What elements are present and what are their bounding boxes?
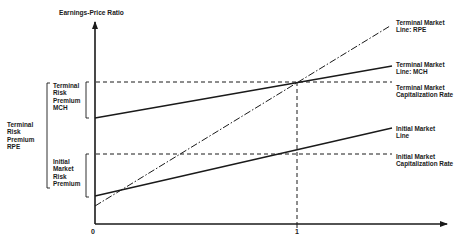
terminal-market-line-rpe	[95, 26, 390, 206]
bracket-initial-market-risk-premium	[86, 154, 89, 197]
initial-market-line	[95, 128, 392, 196]
terminal-market-line-mch	[95, 66, 392, 118]
diagram-canvas	[0, 0, 468, 242]
y-axis-label: Earnings-Price Ratio	[59, 9, 124, 16]
label-terminal-risk-premium-mch: Terminal Risk Premium MCH	[53, 82, 80, 112]
label-initial-cap-rate: Initial Market Capitalization Rate	[396, 153, 453, 168]
bracket-terminal-risk-premium-mch	[86, 82, 89, 118]
label-initial-market-risk-premium: Initial Market Risk Premium	[53, 158, 80, 188]
label-terminal-market-line-mch: Terminal Market Line: MCH	[396, 61, 445, 76]
x-tick-label-1: 1	[295, 228, 299, 235]
bracket-terminal-risk-premium-rpe	[47, 83, 50, 188]
label-terminal-risk-premium-rpe: Terminal Risk Premium RPE	[7, 121, 34, 151]
label-terminal-market-line-rpe: Terminal Market Line: RPE	[396, 19, 445, 34]
x-tick-label-0: 0	[91, 228, 95, 235]
label-terminal-cap-rate: Terminal Market Capitalization Rate	[396, 84, 453, 99]
label-initial-market-line: Initial Market Line	[396, 125, 435, 140]
